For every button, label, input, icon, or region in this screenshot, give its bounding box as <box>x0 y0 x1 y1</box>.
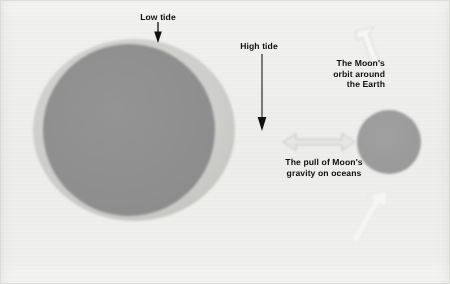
tides-diagram-canvas: Low tide High tide The Moon's orbit arou… <box>0 0 450 284</box>
low-tide-arrow <box>154 22 162 43</box>
label-moon-orbit: The Moon's orbit around the Earth <box>299 58 385 90</box>
orbit-arrow-bottom <box>351 191 387 243</box>
diagram-artwork <box>0 0 450 284</box>
earth <box>43 44 215 216</box>
label-low-tide: Low tide <box>123 12 193 23</box>
label-gravity-pull: The pull of Moon's gravity on oceans <box>260 157 388 178</box>
orbit-arrow-bottom-shape <box>351 191 387 243</box>
high-tide-arrow-head <box>258 117 267 131</box>
earth-circle <box>43 44 215 216</box>
gravity-pull-arrow <box>283 134 355 151</box>
label-high-tide: High tide <box>228 41 290 52</box>
high-tide-arrow <box>258 54 267 131</box>
gravity-pull-arrow-shape <box>283 134 355 151</box>
